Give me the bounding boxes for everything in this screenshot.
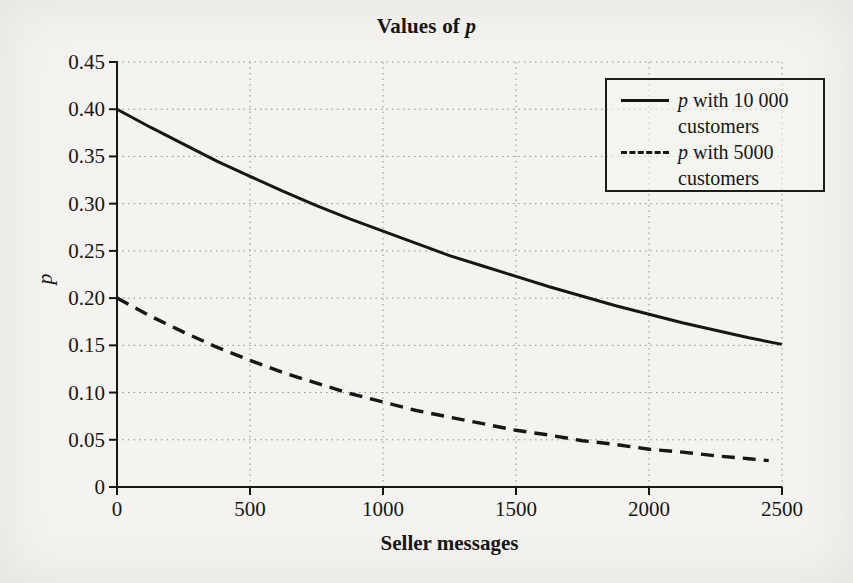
y-tick-label: 0.25: [68, 240, 105, 262]
y-tick-label: 0.20: [68, 287, 105, 309]
legend-solid-line-icon: [621, 99, 669, 102]
y-tick-label: 0.45: [68, 51, 105, 73]
legend-label-5000: p with 5000 customers: [678, 139, 818, 191]
x-tick-label: 2500: [742, 497, 822, 521]
x-tick-label: 1000: [343, 497, 423, 521]
legend-dashed-line-icon: [621, 151, 669, 154]
y-axis-title: p: [32, 266, 62, 292]
y-tick-label: 0.05: [68, 429, 105, 451]
legend-label-text: with 5000 customers: [678, 141, 774, 189]
y-tick-label: 0: [95, 476, 106, 498]
legend-variable: p: [678, 89, 688, 111]
legend-item-10000-customers: p with 10 000 customers: [621, 87, 823, 139]
y-tick-label: 0.35: [68, 145, 105, 167]
x-axis-title: Seller messages: [117, 531, 782, 556]
legend-box: p with 10 000 customers p with 5000 cust…: [605, 78, 825, 192]
series-line-dashed: [117, 298, 769, 461]
x-tick-label: 1500: [476, 497, 556, 521]
x-tick-label: 500: [210, 497, 290, 521]
x-tick-label: 0: [77, 497, 157, 521]
legend-variable: p: [678, 141, 688, 163]
legend-item-5000-customers: p with 5000 customers: [621, 139, 823, 191]
y-tick-label: 0.10: [68, 382, 105, 404]
y-tick-label: 0.30: [68, 193, 105, 215]
legend-label-10000: p with 10 000 customers: [678, 87, 818, 139]
y-axis-title-text: p: [32, 274, 57, 285]
x-tick-label: 2000: [609, 497, 689, 521]
y-tick-label: 0.15: [68, 334, 105, 356]
chart-canvas: Values of p 00.050.100.150.200.250.300.3…: [0, 0, 853, 583]
y-tick-label: 0.40: [68, 98, 105, 120]
legend-label-text: with 10 000 customers: [678, 89, 789, 137]
